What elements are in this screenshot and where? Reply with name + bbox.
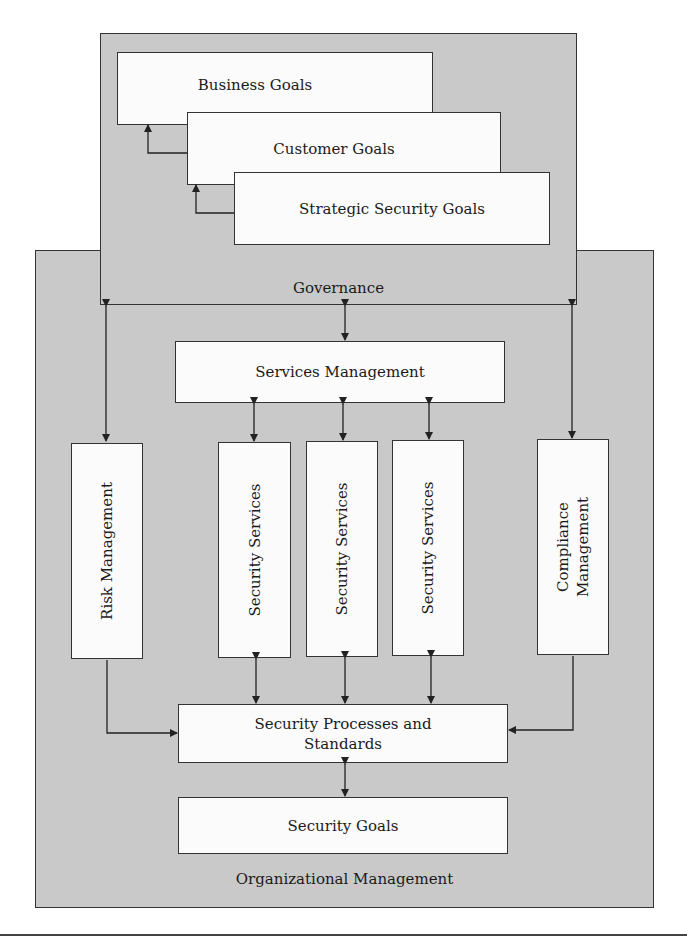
bottom-rule xyxy=(0,934,687,936)
connector-arrows xyxy=(0,0,687,943)
